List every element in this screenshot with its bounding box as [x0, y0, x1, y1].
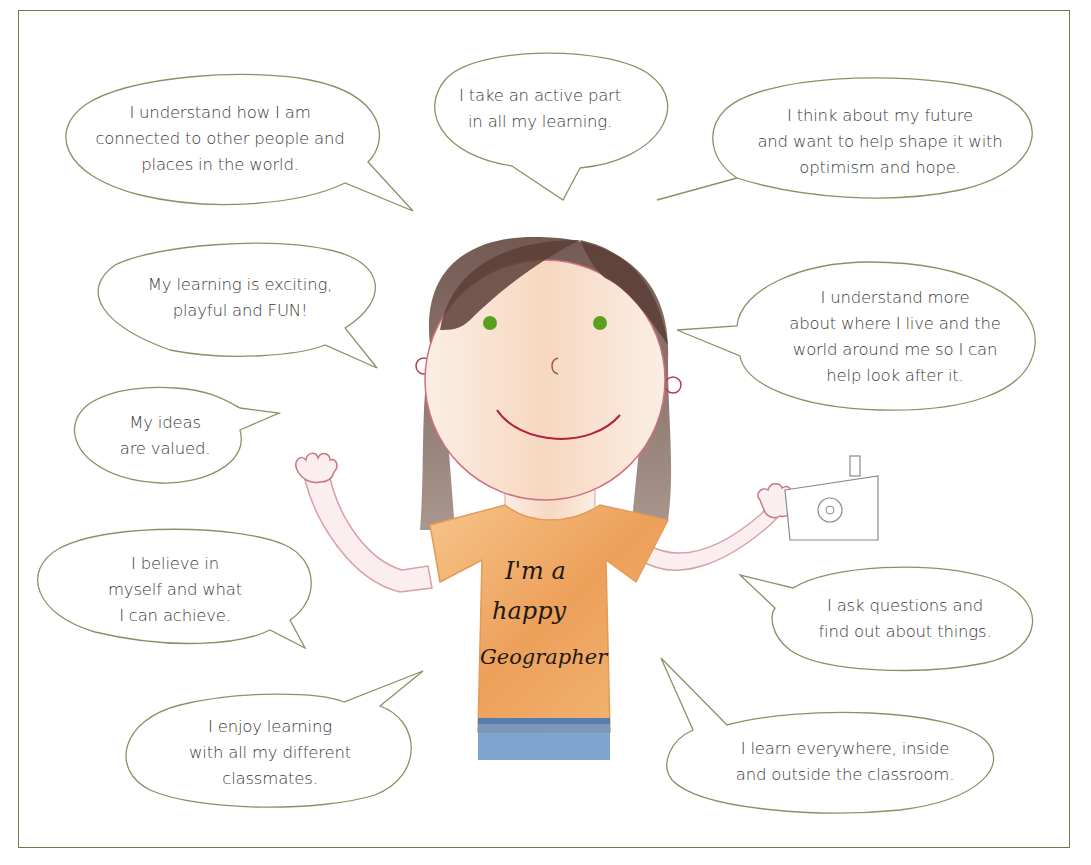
bubble-text-active: I take an active part in all my learning… [430, 83, 650, 135]
bubble-text-fun: My learning is exciting, playful and FUN… [100, 272, 380, 324]
bubble-text-believe: I believe in myself and what I can achie… [40, 551, 310, 629]
bubble-text-future: I think about my future and want to help… [720, 103, 1040, 181]
bubble-text-everywhere: I learn everywhere, inside and outside t… [690, 736, 1000, 788]
bubble-text-ideas: My ideas are valued. [75, 410, 255, 462]
bubble-text-connected: I understand how I am connected to other… [60, 100, 380, 178]
bubble-text-where-i-live: I understand more about where I live and… [745, 285, 1045, 389]
bubble-text-classmates: I enjoy learning with all my different c… [130, 714, 410, 792]
camera-drawing [785, 456, 878, 540]
bubble-text-questions: I ask questions and find out about thing… [775, 593, 1035, 645]
shirt-text-line3: Geographer [480, 642, 607, 672]
shirt-text-line1: I'm a [505, 556, 566, 586]
shirt-text-line2: happy [492, 596, 566, 626]
